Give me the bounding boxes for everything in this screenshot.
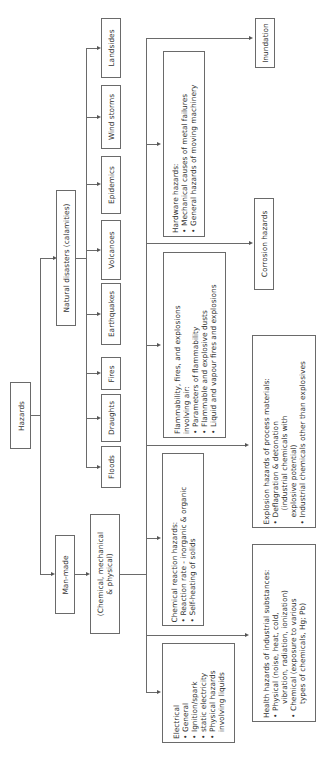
bullet-text-cont: explosive potential) [289,339,298,517]
arrow-icon [245,633,249,637]
bullet-text: Deflagration & detonation [271,421,280,517]
arrow-icon [157,142,161,146]
node-content: Chemical reaction hazards: Reaction rate… [170,457,197,622]
connector [40,258,54,259]
node-label: Inundation [261,23,270,63]
bullet-text: Chemical (exposure to various [289,598,298,711]
connector [146,38,250,39]
hazards-diagram: Hazards Natural disasters (calamities) F… [0,0,330,762]
label-line: & physical) [105,532,114,616]
node-label: Draughts [107,401,116,435]
bullet-item: Ignition/spark [190,647,199,739]
arrow-icon [249,241,253,245]
bullet-item: Physical hazardsinvolving liquids [208,647,226,739]
node-floods: Floods [101,446,121,488]
bullet-text: Physical hazards [208,671,217,733]
node-label: Hazards [16,401,25,431]
arrow-icon [157,536,161,540]
node-hazards: Hazards [10,382,31,449]
node-content: Explosion hazards of process materials: … [262,339,307,524]
node-electrical-hazards: Electrical General Ignition/spark static… [162,643,235,743]
node-content: Hardware hazards: Mechanical causes of m… [171,55,198,233]
connector [146,38,147,692]
node-label: Earthquakes [107,291,116,337]
arrow-icon [157,343,161,347]
bullet-text: Physical (noise, heat, cold, [271,612,280,711]
bullet-item: Deflagration & detonation(industrial che… [271,339,298,524]
bullet-text-cont: involving liquids [217,647,226,732]
node-draughts: Draughts [101,394,121,442]
node-title: Electrical [172,647,181,739]
bullet-item: General [181,647,190,739]
connector [120,574,146,575]
node-label: Natural disasters (calamities) [62,204,71,313]
bullet-item: Physical (noise, heat, cold,vibration, r… [271,548,289,718]
node-title: Hardware hazards: [171,55,180,233]
bullet-text-cont: (industrial chemicals with [280,339,289,517]
bullet-item: Parameters of flammability [190,256,199,434]
node-content: Flammability, fires, and explosions invo… [172,256,217,434]
node-title: Chemical reaction hazards: [170,457,179,622]
connector [40,258,41,575]
connector [30,415,40,416]
node-content: Health hazards of industrial substances:… [262,548,307,718]
bullet-item: Self-heating of solids [188,457,197,622]
arrow-icon [157,690,161,694]
node-title: Health hazards of industrial substances: [262,548,271,718]
bullet-item: Reaction rate - inorganic & organic [179,457,188,622]
node-label: Floods [107,455,116,479]
bullet-item: static electricity [199,647,208,739]
node-explosion-hazards: Explosion hazards of process materials: … [252,335,316,528]
bullet-text-cont: types of chemicals, Hg; Pb) [298,548,307,711]
connector [76,258,86,259]
node-man-made: Man-made [55,535,75,614]
node-chemical-mechanical-physical: (Chemical, mechanical & physical) [90,514,120,634]
node-title: Explosion hazards of process materials: [262,339,271,524]
arrow-icon [245,443,249,447]
node-title: involving air: [181,256,190,434]
bullet-item: Chemical (exposure to varioustypes of ch… [289,548,307,718]
node-chemical-reaction-hazards: Chemical reaction hazards: Reaction rate… [162,453,204,626]
node-hardware-hazards: Hardware hazards: Mechanical causes of m… [163,51,205,237]
bullet-item: Mechanical causes of metal failures [180,55,189,233]
bullet-item: Liquid and vapour fires and explosions [208,256,217,434]
node-natural-disasters: Natural disasters (calamities) [56,190,76,326]
node-volcanoes: Volcanoes [101,220,121,280]
bullet-item: General hazards of moving machinery [189,55,198,233]
arrow-icon [249,36,253,40]
node-earthquakes: Earthquakes [101,283,121,345]
node-landsides: Landsides [101,18,121,78]
connector [86,48,87,467]
node-inundation: Inundation [255,18,275,68]
node-wind-storms: Wind storms [101,85,121,149]
node-label: (Chemical, mechanical & physical) [96,532,114,616]
node-content: Electrical General Ignition/spark static… [172,647,226,739]
node-epidemics: Epidemics [101,156,121,214]
connector [146,445,246,446]
node-label: Fires [107,365,116,382]
connector [146,243,250,244]
node-label: Landsides [107,29,116,66]
bullet-text-cont: vibration, radiation, ionization) [280,548,289,711]
bullet-item: Flammable and explosive dusts [199,256,208,434]
connector [146,635,246,636]
node-health-hazards: Health hazards of industrial substances:… [252,544,316,722]
node-title: Flammability, fires, and explosions [172,256,181,434]
node-label: Man-made [61,555,70,594]
node-label: Volcanoes [107,231,116,268]
node-label: Corrosion hazards [260,211,269,278]
label-line: (Chemical, mechanical [96,532,105,616]
node-corrosion-hazards: Corrosion hazards [254,198,274,290]
bullet-item: Industrial chemicals other than explosiv… [298,339,307,524]
node-fires: Fires [101,357,121,390]
node-label: Wind storms [107,94,116,140]
node-label: Epidemics [107,166,116,204]
node-flammability-hazards: Flammability, fires, and explosions invo… [163,252,226,438]
